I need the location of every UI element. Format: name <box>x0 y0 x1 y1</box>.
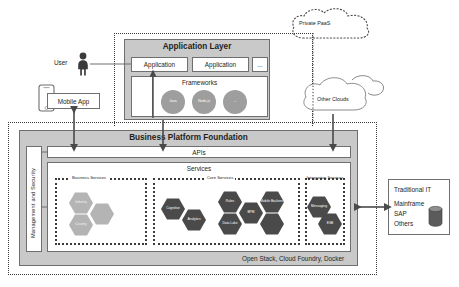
hexagon-country-label: Country <box>75 223 87 227</box>
hexagon-cognitive-label: Cognitive <box>166 207 180 211</box>
management-and-security-label: Management and Security <box>31 162 37 238</box>
user-label: User <box>54 60 68 66</box>
framework-circle-java[interactable]: Java <box>161 90 185 114</box>
frameworks-left-divider <box>152 76 153 117</box>
traditional-it-title: Traditional IT <box>394 187 431 193</box>
framework-circle-nodejs[interactable]: Node.js <box>192 90 216 114</box>
other-clouds-cloud-shape <box>300 74 386 114</box>
application-box-ellipsis[interactable]: ... <box>252 57 268 72</box>
integration-services-title: Integration Services <box>305 172 345 184</box>
core-services-title: Core Services <box>205 176 235 180</box>
database-cylinder-icon <box>428 205 443 227</box>
application-box-2[interactable]: Application <box>192 57 249 72</box>
traditional-it-item-sap: SAP <box>394 211 407 217</box>
person-icon <box>76 52 90 76</box>
private-paas-label: Private PaaS <box>299 21 330 26</box>
hexagon-esb-label: ESB <box>327 222 334 226</box>
application-layer-title: Application Layer <box>124 42 270 52</box>
hexagon-bpm-label: BPM <box>247 211 254 215</box>
traditional-it-item-mainframe: Mainframe <box>394 201 424 207</box>
apis-bar: APIs <box>47 146 351 158</box>
hexagon-mobile-backend-label: Mobile Backend <box>260 200 283 204</box>
business-services-title: Business Services <box>70 176 108 180</box>
other-clouds-label: Other Clouds <box>317 97 349 102</box>
traditional-it-item-others: Others <box>394 221 413 227</box>
infrastructure-label: Open Stack, Cloud Foundry, Docker <box>242 256 344 262</box>
application-box-1[interactable]: Application <box>131 57 188 72</box>
hexagon-rules-label: Rules <box>226 200 234 204</box>
mobile-app-box[interactable]: Mobile App <box>47 93 100 109</box>
architecture-diagram: Private PaaS Other Clouds Application La… <box>0 0 459 287</box>
hexagon-industry-label: Industry <box>75 201 87 205</box>
hexagon-messaging-label: Messaging <box>311 205 327 209</box>
hexagon-analytics-label: Analytics <box>187 218 200 222</box>
business-platform-foundation-title: Business Platform Foundation <box>19 133 358 143</box>
other-clouds-cloud <box>300 74 386 114</box>
framework-circle-ellipsis[interactable]: ... <box>223 90 247 114</box>
hexagon-data-lake-label: Data Lake <box>222 222 237 226</box>
